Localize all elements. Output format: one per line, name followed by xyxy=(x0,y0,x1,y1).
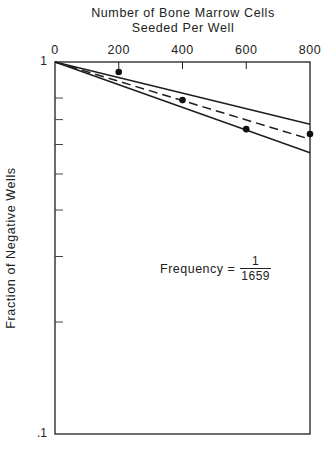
y-tick-label: .1 xyxy=(37,426,47,440)
x-axis-ticks: 0200400600800 xyxy=(51,43,321,69)
plot-frame xyxy=(55,62,310,434)
data-point xyxy=(179,97,186,104)
y-axis-ticks: 1.1 xyxy=(37,54,63,440)
frequency-annotation: Frequency = 1 1659 xyxy=(160,255,271,283)
fit-lines xyxy=(55,62,310,153)
y-tick-label: 1 xyxy=(40,54,47,68)
plot-border xyxy=(55,62,310,434)
x-tick-label: 800 xyxy=(299,43,321,57)
data-point xyxy=(307,131,314,138)
data-point xyxy=(243,126,250,133)
frequency-numerator: 1 xyxy=(252,255,259,268)
chart-plot: 0200400600800 1.1 xyxy=(0,0,333,461)
x-tick-label: 400 xyxy=(171,43,193,57)
data-points xyxy=(115,69,313,138)
confidence-line xyxy=(55,62,310,153)
data-point xyxy=(115,69,122,76)
frequency-denominator: 1659 xyxy=(240,268,271,283)
x-tick-label: 600 xyxy=(235,43,257,57)
frequency-label: Frequency = xyxy=(160,262,235,276)
confidence-line xyxy=(55,62,310,124)
x-tick-label: 0 xyxy=(51,43,58,57)
frequency-fraction: 1 1659 xyxy=(240,255,271,283)
x-tick-label: 200 xyxy=(108,43,130,57)
